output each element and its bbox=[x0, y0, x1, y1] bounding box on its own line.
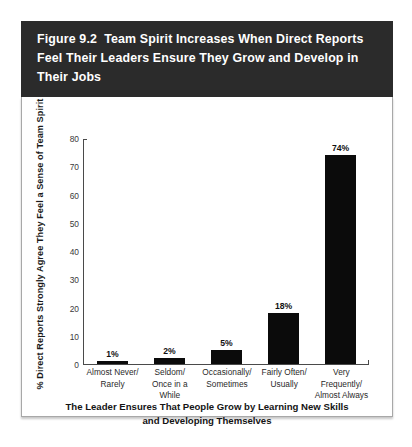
figure-container: Figure 9.2 Team Spirit Increases When Di… bbox=[21, 21, 393, 417]
y-axis-tick-label: 30 bbox=[70, 275, 79, 285]
y-axis-tick-label: 60 bbox=[70, 191, 79, 201]
bar-value-label: 2% bbox=[163, 346, 175, 356]
bar[interactable] bbox=[97, 361, 128, 364]
bar[interactable] bbox=[268, 313, 299, 364]
x-axis-line bbox=[83, 364, 369, 365]
x-axis-category-labels: Almost Never/ RarelySeldom/ Once in a Wh… bbox=[84, 367, 370, 402]
y-axis-tick-label: 20 bbox=[70, 304, 79, 314]
x-axis-category-label: Very Frequently/ Almost Always bbox=[313, 367, 370, 402]
bar-slot: 1% bbox=[84, 139, 141, 364]
x-axis-category-label: Fairly Often/ Usually bbox=[256, 367, 313, 402]
x-axis-title: The Leader Ensures That People Grow by L… bbox=[36, 400, 378, 429]
y-axis-tick-label: 0 bbox=[74, 360, 79, 370]
x-axis-category-label: Seldom/ Once in a While bbox=[141, 367, 198, 402]
y-axis-tick-label: 10 bbox=[70, 332, 79, 342]
figure-title-band: Figure 9.2 Team Spirit Increases When Di… bbox=[21, 21, 393, 97]
chart-panel: % Direct Reports Strongly Agree They Fee… bbox=[21, 97, 393, 417]
plot-area: 80706050403020100 1%2%5%18%74% bbox=[83, 139, 369, 365]
bar-value-label: 18% bbox=[275, 301, 292, 311]
bar-slot: 74% bbox=[312, 139, 369, 364]
bar[interactable] bbox=[154, 358, 185, 364]
bar-value-label: 5% bbox=[220, 338, 232, 348]
y-axis-title: % Direct Reports Strongly Agree They Fee… bbox=[34, 99, 47, 390]
bar[interactable] bbox=[211, 350, 242, 364]
figure-title: Figure 9.2 Team Spirit Increases When Di… bbox=[37, 30, 377, 87]
y-axis-tick-label: 70 bbox=[70, 162, 79, 172]
y-axis-tick-label: 40 bbox=[70, 247, 79, 257]
y-axis-tick-label: 80 bbox=[70, 134, 79, 144]
bar-value-label: 1% bbox=[106, 349, 118, 359]
bar-value-label: 74% bbox=[332, 143, 349, 153]
bar-slot: 18% bbox=[255, 139, 312, 364]
bar[interactable] bbox=[325, 155, 356, 364]
y-axis-tick-label: 50 bbox=[70, 219, 79, 229]
x-axis-category-label: Occasionally/ Sometimes bbox=[198, 367, 255, 402]
bar-series: 1%2%5%18%74% bbox=[84, 139, 369, 364]
bar-slot: 2% bbox=[141, 139, 198, 364]
bar-slot: 5% bbox=[198, 139, 255, 364]
y-axis-title-container: % Direct Reports Strongly Agree They Fee… bbox=[26, 119, 56, 369]
x-axis-category-label: Almost Never/ Rarely bbox=[84, 367, 141, 402]
